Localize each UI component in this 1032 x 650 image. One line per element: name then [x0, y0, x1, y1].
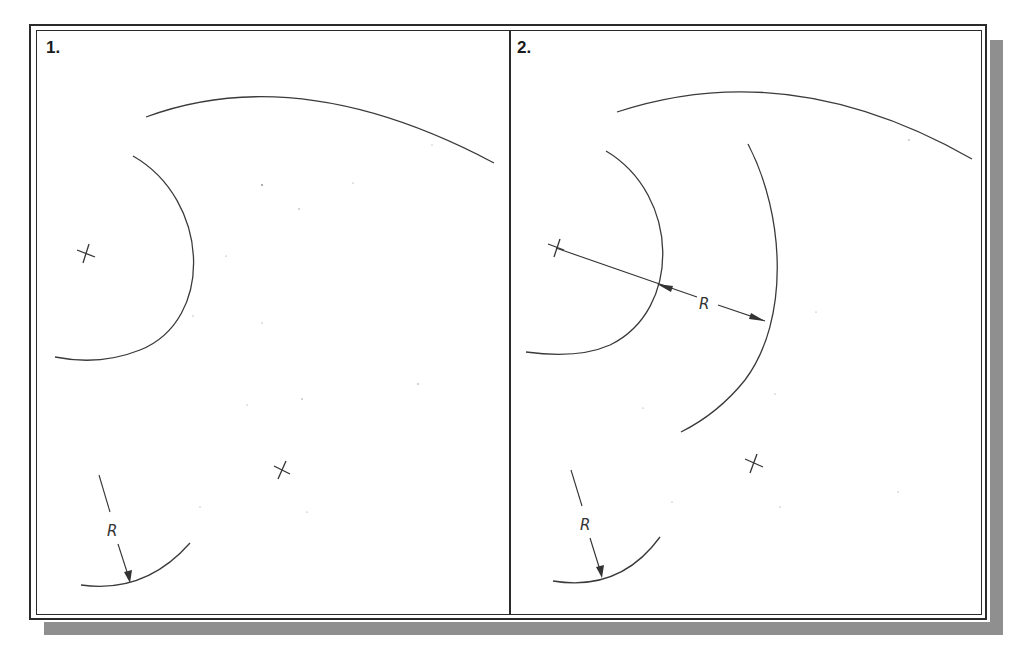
panel-1-center-mark-right — [274, 461, 290, 479]
panel-2-center-mark-right — [745, 454, 763, 473]
background-specks — [192, 139, 909, 512]
panel-1-top-arc — [146, 97, 494, 163]
panel-1-fillet-arc — [81, 543, 190, 586]
panel-1-center-mark-left — [77, 244, 95, 263]
panel-2-radius-label: R — [580, 516, 590, 534]
diagram-canvas: R R — [0, 0, 1032, 650]
panel-1-radius-leader: R — [99, 475, 132, 583]
diagram-figure: 1. 2. R — [0, 0, 1032, 650]
dimension-arrow-right — [749, 313, 765, 321]
panel-2-dimension-label: R — [699, 295, 709, 313]
panel-1-left-arc — [55, 156, 194, 360]
panel-2-left-arc — [526, 151, 663, 354]
panel-2-fillet-arc — [553, 537, 660, 583]
panel-2-top-arc — [617, 92, 972, 159]
dimension-arrow-left — [657, 284, 673, 292]
panel-1-radius-label: R — [107, 522, 117, 540]
panel-2-offset-arc — [681, 144, 777, 432]
panel-2-radius-leader: R — [571, 470, 604, 578]
panel-1: R — [55, 97, 494, 587]
panel-2: R R — [526, 92, 972, 583]
panel-2-dimension-R: R — [556, 248, 765, 321]
